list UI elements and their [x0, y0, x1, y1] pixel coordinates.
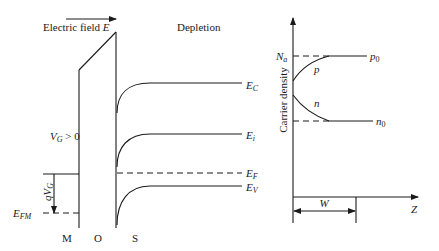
- electron-density-curve: [293, 95, 329, 121]
- intrinsic-level-label: Ei: [245, 129, 255, 143]
- layer-label-metal: M: [62, 232, 72, 244]
- band-diagram: Electric field E Depletion VG > 0 qVG EF…: [12, 19, 259, 244]
- gate-shift-label: qVG: [41, 183, 55, 201]
- intrinsic-level: [117, 134, 242, 167]
- conduction-band: [117, 83, 242, 113]
- carrier-density-plot: Carrier density Z Na p0 n0 p n W: [275, 18, 418, 223]
- layer-label-oxide: O: [94, 232, 102, 244]
- conduction-band-label: EC: [245, 79, 259, 93]
- metal-fermi-label: EFM: [12, 207, 33, 221]
- electron-curve-label: n: [314, 97, 320, 109]
- depletion-width-label: W: [319, 197, 329, 209]
- acceptor-label: Na: [275, 50, 287, 64]
- hole-curve-label: p: [313, 63, 320, 75]
- depletion-label: Depletion: [177, 21, 221, 33]
- gate-bias-label: VG > 0: [50, 130, 80, 144]
- x-axis-label: Z: [411, 203, 418, 215]
- electric-field-label: Electric field E: [43, 21, 110, 33]
- valence-band-label: EV: [245, 181, 259, 195]
- valence-band: [117, 186, 242, 225]
- layer-label-semiconductor: S: [132, 232, 138, 244]
- mos-depletion-figure: Electric field E Depletion VG > 0 qVG EF…: [0, 0, 439, 251]
- oxide-conduction-slope: [79, 32, 116, 70]
- hole-density-curve: [293, 56, 329, 81]
- y-axis-label: Carrier density: [277, 67, 289, 133]
- fermi-level-label: EF: [245, 167, 258, 181]
- hole-bulk-label: p0: [369, 50, 380, 64]
- electron-bulk-label: n0: [376, 115, 386, 129]
